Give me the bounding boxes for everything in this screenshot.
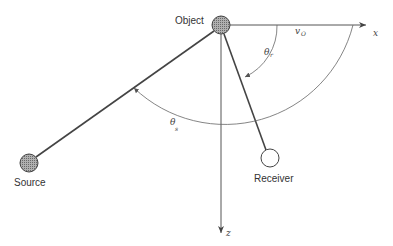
receiver-line <box>224 34 266 150</box>
diagram-canvas: Object Source Receiver x z v O θ r θ s <box>0 0 393 246</box>
z-axis-label: z <box>225 228 231 238</box>
diagram-svg: Object Source Receiver x z v O θ r θ s <box>0 0 393 246</box>
theta-s-arc <box>134 25 353 124</box>
object-node <box>212 16 230 34</box>
receiver-label: Receiver <box>254 173 294 184</box>
theta-s-subscript: s <box>175 125 178 132</box>
velocity-symbol: v <box>295 26 300 36</box>
theta-r-subscript: r <box>270 51 274 58</box>
source-node <box>20 154 38 172</box>
object-label: Object <box>175 15 204 26</box>
x-axis-label: x <box>373 28 378 38</box>
velocity-subscript: O <box>301 30 306 37</box>
source-line <box>36 31 214 157</box>
source-label: Source <box>14 177 46 188</box>
receiver-node <box>261 149 279 167</box>
